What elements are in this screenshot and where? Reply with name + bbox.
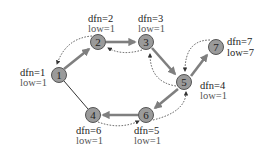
backtrack-edge-3-2: [108, 48, 142, 53]
svg-text:6: 6: [143, 109, 149, 121]
node-6-low: low=1: [134, 135, 161, 146]
node-5-label: dfn=4 low=1: [200, 80, 227, 101]
node-3-low: low=1: [138, 23, 165, 34]
svg-text:1: 1: [56, 69, 62, 81]
node-4: 4: [86, 108, 101, 123]
svg-text:3: 3: [143, 36, 149, 48]
node-5-low: low=1: [200, 90, 227, 101]
dfs-graph-diagram: 1 2 3 5 7 6 4 dfn=1 low=1 dfn=2 low=1 df…: [0, 0, 276, 153]
node-1: 1: [52, 68, 67, 83]
node-4-label: dfn=6 low=1: [76, 125, 103, 146]
node-3-label: dfn=3 low=1: [138, 13, 165, 34]
svg-text:2: 2: [95, 36, 101, 48]
node-5: 5: [177, 75, 192, 90]
node-7: 7: [209, 40, 224, 55]
node-6: 6: [139, 108, 154, 123]
node-4-low: low=1: [76, 135, 103, 146]
tree-edge-3-5: [152, 48, 175, 74]
tree-edge-5-6: [155, 89, 178, 108]
node-7-low: low=7: [227, 47, 254, 58]
node-7-dfn: dfn=7: [227, 36, 252, 47]
node-1-low: low=1: [20, 77, 47, 88]
svg-text:5: 5: [181, 76, 187, 88]
node-2-low: low=1: [88, 23, 115, 34]
tree-edge-5-7: [191, 55, 207, 76]
node-7-label: dfn=7 low=7: [227, 36, 254, 58]
edge-1-4: [64, 81, 88, 109]
node-1-label: dfn=1 low=1: [20, 67, 47, 88]
backtrack-edge-4-6: [98, 121, 139, 126]
svg-text:7: 7: [213, 41, 219, 53]
svg-text:4: 4: [90, 109, 96, 121]
tree-edge-1-2: [64, 49, 89, 69]
node-2-label: dfn=2 low=1: [88, 13, 115, 34]
node-6-label: dfn=5 low=1: [134, 125, 161, 146]
node-3: 3: [139, 35, 154, 50]
node-2: 2: [91, 35, 106, 50]
